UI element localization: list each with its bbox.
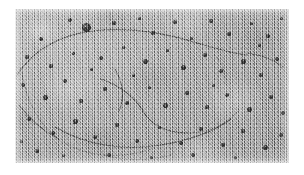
micrograph-image: [15, 9, 289, 163]
micrograph-figure: [0, 0, 304, 175]
speckle-layer: [15, 9, 289, 163]
